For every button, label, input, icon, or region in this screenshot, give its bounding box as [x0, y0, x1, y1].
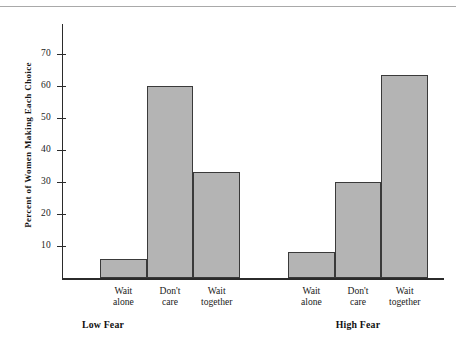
- group-label-high-fear: High Fear: [283, 319, 433, 330]
- bar: [147, 86, 194, 278]
- group-label-low-fear: Low Fear: [28, 319, 178, 330]
- category-label: Waittogether: [184, 285, 250, 308]
- bar: [335, 182, 382, 278]
- bar: [193, 172, 240, 278]
- category-label-line2: together: [184, 296, 250, 307]
- bar: [100, 259, 147, 278]
- category-label-line2: together: [372, 296, 438, 307]
- x-axis-spine: [62, 278, 444, 280]
- category-label: Waittogether: [372, 285, 438, 308]
- bar: [381, 75, 428, 278]
- bar: [288, 252, 335, 278]
- bar-chart-figure: Percent of Women Making Each Choice 1020…: [0, 0, 456, 341]
- category-label-line1: Wait: [372, 285, 438, 296]
- category-label-line1: Wait: [184, 285, 250, 296]
- bars-layer: [0, 0, 456, 278]
